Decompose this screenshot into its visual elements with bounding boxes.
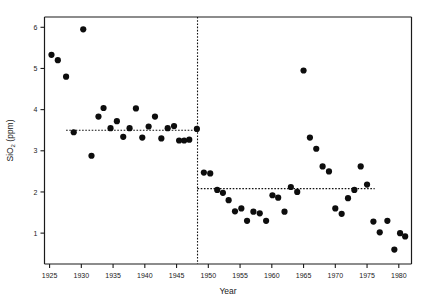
data-point	[320, 163, 326, 169]
x-tick-label: 1955	[232, 272, 248, 279]
y-tick-label: 3	[34, 147, 38, 154]
y-axis-title: SiO2 (ppm)	[5, 119, 16, 161]
data-point	[250, 209, 256, 215]
data-point	[55, 57, 61, 63]
x-axis-title: Year	[219, 286, 236, 296]
data-point	[152, 114, 158, 120]
data-point	[220, 190, 226, 196]
data-point	[332, 205, 338, 211]
data-point	[257, 210, 263, 216]
data-point	[107, 125, 113, 131]
data-point	[345, 195, 351, 201]
data-point	[397, 230, 403, 236]
y-tick-label: 4	[34, 106, 38, 113]
x-tick-label: 1960	[264, 272, 280, 279]
x-tick-label: 1945	[169, 272, 185, 279]
x-tick-label: 1950	[201, 272, 217, 279]
x-tick-label: 1980	[391, 272, 407, 279]
data-point	[370, 219, 376, 225]
data-point	[186, 137, 192, 143]
data-point	[171, 123, 177, 129]
data-point	[263, 218, 269, 224]
data-point	[244, 218, 250, 224]
data-point	[139, 135, 145, 141]
x-tick-label: 1970	[328, 272, 344, 279]
data-point	[281, 209, 287, 215]
data-point	[294, 189, 300, 195]
data-point	[339, 211, 345, 217]
data-point	[120, 134, 126, 140]
data-point	[275, 195, 281, 201]
data-point	[95, 114, 101, 120]
data-point	[194, 126, 200, 132]
data-point	[384, 218, 390, 224]
y-tick-label: 1	[34, 230, 38, 237]
x-tick-label: 1930	[74, 272, 90, 279]
data-point	[226, 197, 232, 203]
data-point	[232, 208, 238, 214]
data-point	[326, 168, 332, 174]
data-point	[288, 184, 294, 190]
y-tick-label: 5	[34, 65, 38, 72]
data-point	[71, 129, 77, 135]
data-point	[300, 67, 306, 73]
data-point	[207, 170, 213, 176]
data-point	[100, 105, 106, 111]
data-point	[63, 74, 69, 80]
data-point	[165, 125, 171, 131]
x-tick-label: 1975	[359, 272, 375, 279]
data-point	[351, 187, 357, 193]
data-point	[80, 26, 86, 32]
x-tick-label: 1925	[42, 272, 58, 279]
data-point	[126, 125, 132, 131]
data-point	[358, 163, 364, 169]
data-point	[313, 146, 319, 152]
data-point	[158, 135, 164, 141]
data-point	[214, 187, 220, 193]
data-point	[48, 52, 54, 58]
data-point	[307, 135, 313, 141]
x-tick-label: 1935	[105, 272, 121, 279]
data-point	[364, 181, 370, 187]
data-point	[88, 153, 94, 159]
y-tick-label: 6	[34, 24, 38, 31]
x-tick-label: 1965	[296, 272, 312, 279]
data-point	[146, 123, 152, 129]
data-point	[402, 233, 408, 239]
y-tick-label: 2	[34, 189, 38, 196]
plot-canvas: 1234561925193019351940194519501955196019…	[0, 0, 426, 298]
data-point	[377, 229, 383, 235]
data-point	[133, 105, 139, 111]
x-tick-label: 1940	[137, 272, 153, 279]
data-point	[114, 118, 120, 124]
scatter-plot-figure: 1234561925193019351940194519501955196019…	[0, 0, 426, 298]
data-point	[201, 170, 207, 176]
data-point	[269, 192, 275, 198]
data-point	[238, 205, 244, 211]
data-point	[391, 246, 397, 252]
